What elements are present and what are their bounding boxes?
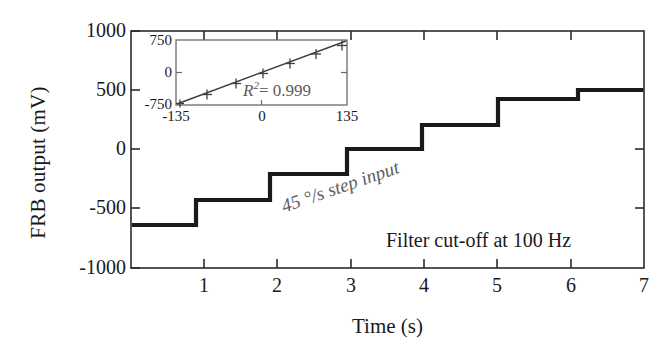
- inset-x-tick-135: 135: [317, 108, 377, 125]
- x-tick-2: 2: [257, 274, 297, 297]
- x-tick-1: 1: [184, 274, 224, 297]
- inset-x-tick-0: 0: [232, 108, 292, 125]
- x-axis-title: Time (s): [131, 314, 644, 339]
- inset-y-tick-labels: 750 0 -750: [96, 0, 176, 348]
- inset-x-tick-m135: -135: [146, 108, 206, 125]
- inset-r-squared-label: R2= 0.999: [243, 79, 311, 101]
- x-tick-3: 3: [331, 274, 371, 297]
- inset-y-tick-750: 750: [92, 32, 172, 49]
- y-axis-title: FRB output (mV): [26, 43, 51, 283]
- inset-y-tick-0: 0: [92, 64, 172, 81]
- figure-panel: 1000 500 0 -500 -1000 1 2 3 4 5 6 7 750 …: [0, 0, 666, 348]
- x-tick-5: 5: [477, 274, 517, 297]
- inset-x-tick-labels: -135 0 135: [0, 108, 666, 132]
- x-tick-6: 6: [551, 274, 591, 297]
- filter-cutoff-annotation: Filter cut-off at 100 Hz: [386, 229, 571, 252]
- x-axis-ticks: [204, 259, 571, 268]
- x-tick-7: 7: [624, 274, 664, 297]
- x-axis-ticks-top: [204, 31, 571, 40]
- r-squared-base: R: [243, 81, 253, 100]
- x-tick-4: 4: [404, 274, 444, 297]
- r-squared-value: = 0.999: [259, 81, 311, 100]
